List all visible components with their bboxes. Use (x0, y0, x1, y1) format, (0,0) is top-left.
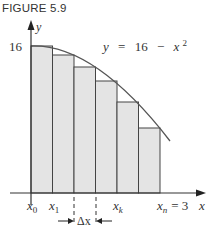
delta-arrowhead-left-icon (68, 218, 74, 224)
rectangle-4 (96, 81, 118, 193)
x-tick-xn: xn= 3 (156, 198, 188, 215)
delta-x-label: Δx (77, 214, 91, 225)
rectangle-6 (139, 128, 161, 193)
y-tick-16: 16 (9, 39, 23, 54)
approximating-rectangles (31, 46, 160, 193)
curve-equation: y = 16 − x 2 (101, 38, 187, 54)
rectangle-1 (31, 46, 53, 193)
delta-arrowhead-right-icon (96, 218, 102, 224)
x-axis-arrow-icon (196, 190, 206, 197)
y-axis-label: y (35, 20, 42, 34)
y-axis-arrow-icon (28, 20, 35, 30)
rectangle-5 (117, 102, 139, 193)
x-axis-label: x (198, 198, 205, 213)
rectangle-2 (53, 55, 75, 193)
riemann-sum-diagram: y 16 y = 16 − x 2 x0 x1 xk xn= 3 x Δx (0, 0, 216, 225)
x-tick-x0: x0 (26, 198, 38, 215)
rectangle-3 (74, 67, 96, 193)
x-tick-xk: xk (112, 198, 124, 215)
x-tick-x1: x1 (48, 198, 59, 215)
